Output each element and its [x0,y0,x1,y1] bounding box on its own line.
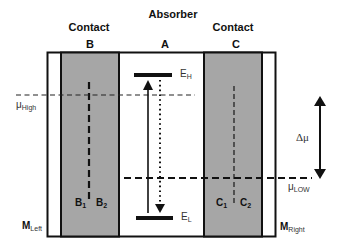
absorber-header: Absorber [138,8,208,20]
region-b-label: B [80,38,100,50]
excitation-arrowhead [143,80,153,90]
delta-mu-label: Δμ [296,131,309,143]
region-c-label: C [226,38,246,50]
e-high-label: EH [180,68,192,80]
e-low-label: EL [181,211,192,223]
contact-left-header: Contact [54,21,124,33]
mu-high-label: μHigh [16,99,36,111]
c1-label: C1 [216,197,227,209]
contact-c-region [204,53,262,237]
metal-left-label: MLeft [22,220,42,232]
metal-right-label: MRight [280,221,305,233]
contact-right-header: Contact [198,21,268,33]
mu-low-label: μLOW [288,181,310,193]
relaxation-arrowhead [155,204,165,213]
region-a-label: A [155,38,175,50]
c2-label: C2 [240,197,251,209]
b1-label: B1 [75,197,86,209]
b2-label: B2 [96,197,107,209]
contact-b-region [61,53,119,237]
delta-mu-arrowhead-down [314,169,326,179]
delta-mu-arrowhead-up [314,96,326,106]
